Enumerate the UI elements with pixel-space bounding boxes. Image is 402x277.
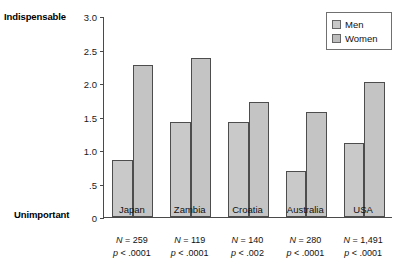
y-axis-tick-label: 1.5: [64, 112, 104, 123]
p-value-australia: p < .0001: [276, 247, 334, 260]
p-value-usa: p < .0001: [334, 247, 392, 260]
y-axis-tick-mark: [100, 218, 104, 219]
chart-legend: Men Women: [326, 12, 392, 50]
x-axis-label-australia: Australia: [276, 204, 334, 215]
x-axis-label-zambia: Zambia: [161, 204, 219, 215]
bar-zambia-women: [191, 58, 212, 217]
bar-croatia-women: [249, 102, 270, 217]
y-axis-tick-label: 1.0: [64, 146, 104, 157]
sample-size-zambia: N = 119: [161, 234, 219, 247]
y-axis-tick-label: 2.0: [64, 79, 104, 90]
stats-zambia: N = 119p < .0001: [161, 234, 219, 259]
y-axis-tick-mark: [100, 17, 104, 18]
legend-label-men: Men: [345, 19, 363, 30]
y-axis-tick-mark: [100, 118, 104, 119]
y-axis-tick-mark: [100, 51, 104, 52]
bar-zambia-men: [170, 122, 191, 217]
x-axis-label-usa: USA: [334, 204, 392, 215]
stats-australia: N = 280p < .0001: [276, 234, 334, 259]
y-axis-tick-mark: [100, 185, 104, 186]
sample-size-usa: N = 1,491: [334, 234, 392, 247]
y-axis-anchor-low-label: Unimportant: [14, 209, 69, 220]
sample-size-japan: N = 259: [103, 234, 161, 247]
bar-usa-women: [364, 82, 385, 217]
p-value-japan: p < .0001: [103, 247, 161, 260]
legend-label-women: Women: [345, 33, 378, 44]
x-axis-label-japan: Japan: [103, 204, 161, 215]
x-axis-label-croatia: Croatia: [219, 204, 277, 215]
y-axis-tick-mark: [100, 84, 104, 85]
y-axis-tick-label: 3.0: [64, 12, 104, 23]
bar-chart-figure: Indispensable Unimportant 3.02.52.01.51.…: [0, 0, 402, 277]
legend-swatch-men-icon: [332, 20, 341, 29]
stats-japan: N = 259p < .0001: [103, 234, 161, 259]
y-axis-tick-label: 2.5: [64, 45, 104, 56]
legend-item-men: Men: [332, 17, 386, 31]
bar-croatia-men: [228, 122, 249, 217]
sample-size-croatia: N = 140: [219, 234, 277, 247]
bar-japan-women: [133, 65, 154, 217]
y-axis-tick-label: 0: [64, 213, 104, 224]
legend-swatch-women-icon: [332, 34, 341, 43]
p-value-croatia: p < .002: [219, 247, 277, 260]
y-axis-anchor-high-label: Indispensable: [4, 11, 66, 22]
legend-item-women: Women: [332, 31, 386, 45]
sample-size-australia: N = 280: [276, 234, 334, 247]
p-value-zambia: p < .0001: [161, 247, 219, 260]
stats-croatia: N = 140p < .002: [219, 234, 277, 259]
stats-usa: N = 1,491p < .0001: [334, 234, 392, 259]
y-axis-tick-mark: [100, 151, 104, 152]
bar-australia-women: [306, 112, 327, 217]
y-axis-tick-label: .5: [64, 179, 104, 190]
